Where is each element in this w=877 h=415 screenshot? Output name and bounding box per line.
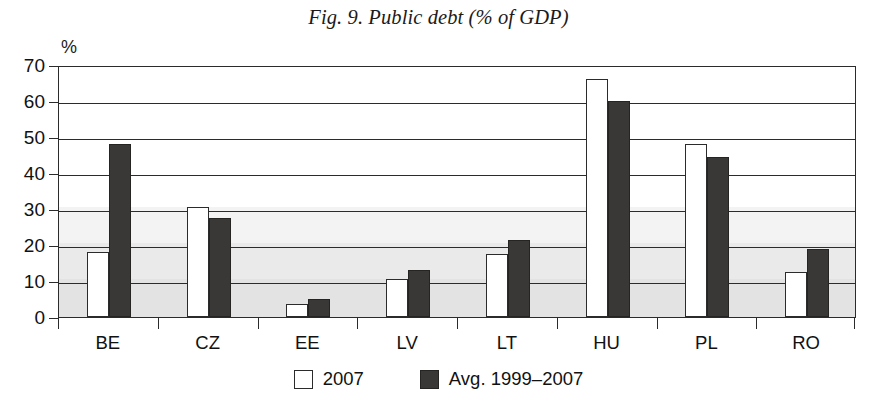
y-axis-label-60: 60: [24, 91, 45, 113]
legend-swatch-icon-1: [294, 370, 313, 389]
y-axis: 010203040506070: [0, 66, 58, 318]
x-axis-label-hu: HU: [593, 332, 620, 354]
legend-label-2: Avg. 1999–2007: [449, 368, 583, 390]
x-axis-label-ro: RO: [792, 332, 820, 354]
bar-lv-series-2: [408, 270, 430, 317]
y-axis-label-50: 50: [24, 127, 45, 149]
x-tick-1: [158, 318, 159, 329]
bar-ee-series-1: [286, 304, 308, 317]
x-tick-5: [557, 318, 558, 329]
y-tick-0: [49, 318, 58, 319]
x-tick-0: [58, 318, 59, 329]
bar-hu-series-1: [586, 79, 608, 317]
y-tick-30: [49, 210, 58, 211]
y-axis-label-20: 20: [24, 235, 45, 257]
x-axis-label-be: BE: [96, 332, 121, 354]
y-tick-70: [49, 66, 58, 67]
bar-pl-series-1: [685, 144, 707, 317]
x-tick-3: [357, 318, 358, 329]
bar-lt-series-1: [486, 254, 508, 317]
bar-be-series-1: [87, 252, 109, 317]
y-tick-40: [49, 174, 58, 175]
chart-legend: 2007Avg. 1999–2007: [0, 368, 877, 390]
y-axis-label-0: 0: [34, 307, 45, 329]
bar-lv-series-1: [386, 279, 408, 317]
plot-area: [58, 66, 856, 318]
bar-hu-series-2: [608, 101, 630, 317]
legend-swatch-icon-2: [420, 370, 439, 389]
bar-group-ro: [757, 67, 856, 317]
x-axis: BECZEELVLTHUPLRO: [58, 318, 856, 366]
x-axis-label-ee: EE: [295, 332, 320, 354]
x-tick-8: [854, 318, 855, 329]
x-tick-4: [457, 318, 458, 329]
x-axis-label-pl: PL: [695, 332, 718, 354]
figure-public-debt: Fig. 9. Public debt (% of GDP) % 0102030…: [0, 0, 877, 415]
y-tick-50: [49, 138, 58, 139]
y-tick-10: [49, 282, 58, 283]
bar-cz-series-2: [209, 218, 231, 317]
bar-group-pl: [658, 67, 758, 317]
y-axis-unit-label: %: [61, 38, 77, 56]
bar-lt-series-2: [508, 240, 530, 317]
y-axis-label-40: 40: [24, 163, 45, 185]
bar-group-ee: [259, 67, 359, 317]
legend-item-2[interactable]: Avg. 1999–2007: [420, 368, 583, 390]
bar-ro-series-1: [785, 272, 807, 317]
x-axis-label-lt: LT: [497, 332, 517, 354]
bar-cz-series-1: [187, 207, 209, 317]
bar-pl-series-2: [707, 157, 729, 317]
y-axis-label-70: 70: [24, 55, 45, 77]
bar-ee-series-2: [308, 299, 330, 317]
y-tick-60: [49, 102, 58, 103]
x-tick-2: [258, 318, 259, 329]
y-axis-label-10: 10: [24, 271, 45, 293]
chart-title: Fig. 9. Public debt (% of GDP): [0, 6, 877, 29]
bar-group-lv: [358, 67, 458, 317]
x-tick-6: [657, 318, 658, 329]
y-axis-label-30: 30: [24, 199, 45, 221]
bar-group-lt: [458, 67, 558, 317]
bar-group-cz: [159, 67, 259, 317]
x-tick-7: [756, 318, 757, 329]
y-tick-20: [49, 246, 58, 247]
x-axis-label-lv: LV: [396, 332, 417, 354]
bar-group-be: [59, 67, 159, 317]
x-axis-label-cz: CZ: [195, 332, 220, 354]
legend-label-1: 2007: [323, 368, 364, 390]
bar-be-series-2: [109, 144, 131, 317]
bar-group-hu: [558, 67, 658, 317]
legend-item-1[interactable]: 2007: [294, 368, 364, 390]
bar-ro-series-2: [807, 249, 829, 317]
